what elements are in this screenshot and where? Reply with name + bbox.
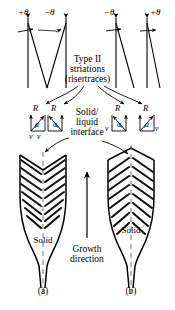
striations-label: Type II striations (risertraces) bbox=[60, 55, 115, 85]
crystal-shape-b bbox=[108, 145, 154, 296]
interface-label: Solid/ liquid interface bbox=[62, 108, 112, 138]
r-label-b-right: R bbox=[143, 104, 148, 113]
caption-b: (b) bbox=[116, 287, 146, 297]
v-label-b-left: v bbox=[105, 125, 108, 133]
r-label-b-left: R bbox=[115, 104, 120, 113]
angle-label-a-right: −θ bbox=[44, 8, 55, 17]
solid-label-a: Solid bbox=[24, 236, 62, 245]
alpha-label-b-left: α bbox=[117, 121, 121, 129]
angle-wedge-b-right bbox=[140, 18, 160, 88]
interface-pointer-arrows bbox=[45, 138, 128, 154]
r-label-a-right: R bbox=[51, 104, 56, 113]
striation-pointer-arrows bbox=[46, 86, 142, 104]
v-label-a-left: v bbox=[29, 133, 32, 141]
solid-label-b: Solid bbox=[112, 226, 150, 235]
r-label-a-left: R bbox=[33, 104, 38, 113]
alpha-label-a-left: α bbox=[35, 121, 39, 129]
alpha-label-b-right: α bbox=[145, 121, 149, 129]
angle-label-a-left: +θ bbox=[18, 8, 29, 17]
striations-label-line3: (risertraces) bbox=[60, 75, 115, 85]
growth-direction-label: Growth direction bbox=[62, 245, 112, 265]
crystal-shape-a bbox=[20, 152, 66, 296]
angle-label-b-right: +θ bbox=[150, 8, 161, 17]
v-label-b-right: v bbox=[155, 125, 158, 133]
v-label-a-right: v bbox=[37, 133, 40, 141]
alpha-label-a-right: α bbox=[53, 121, 57, 129]
figure-container: +θ −θ −θ +θ Type II striations (risertra… bbox=[0, 0, 175, 310]
caption-a: (a) bbox=[28, 287, 58, 297]
growth-direction-line2: direction bbox=[62, 255, 112, 265]
angle-wedge-a-left bbox=[18, 18, 47, 88]
angle-label-b-left: −θ bbox=[104, 8, 115, 17]
